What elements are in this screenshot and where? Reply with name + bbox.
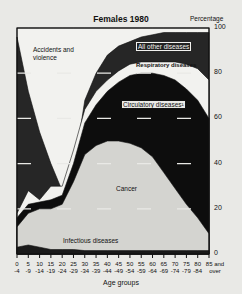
y-tick-label: 100 (214, 23, 226, 30)
label-accidents: Accidents and violence (33, 46, 74, 62)
y-tick-label: 20 (214, 204, 222, 211)
label-accidents-line2: violence (33, 54, 74, 62)
label-cancer: Cancer (116, 185, 137, 192)
label-infectious-diseases: Infectious diseases (63, 237, 118, 244)
label-all-other-diseases: All other diseases (136, 42, 191, 51)
label-accidents-line1: Accidents and (33, 46, 74, 54)
y-tick-label: 40 (214, 159, 222, 166)
y-tick-label: 0 (214, 249, 218, 256)
y-tick-label: 80 (214, 68, 222, 75)
x-tick-label: 85 andover (205, 261, 225, 275)
y-tick-label: 60 (214, 113, 222, 120)
stacked-area-chart (0, 0, 242, 294)
label-circulatory-diseases: Circulatory diseases¹ (121, 100, 186, 109)
label-respiratory-diseases: Respiratory diseases (136, 62, 196, 68)
x-axis-label: Age groups (0, 279, 242, 286)
